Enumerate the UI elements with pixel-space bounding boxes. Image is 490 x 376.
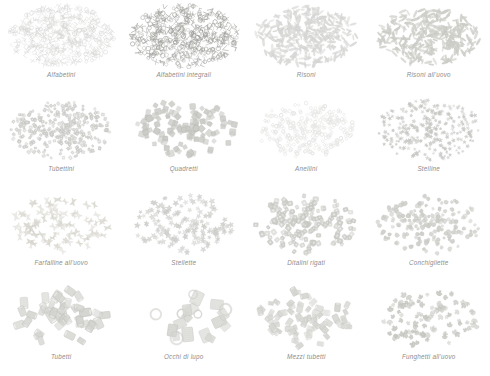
pasta-photo	[5, 285, 117, 351]
pasta-caption: Risoni	[297, 72, 316, 79]
pasta-cell-mezzi-tubetti: Mezzi tubetti	[245, 282, 368, 376]
pasta-photo	[5, 191, 117, 257]
pasta-caption: Tubettini	[48, 166, 74, 173]
pasta-cell-alfabetini: Alfabetini	[0, 0, 123, 94]
pasta-photo	[5, 3, 117, 69]
pasta-caption: Anellini	[295, 166, 317, 173]
pasta-cell-stelline: Stelline	[368, 94, 490, 188]
pasta-caption: Conchigliette	[409, 260, 449, 267]
pasta-cell-tubetti: Tubetti	[0, 282, 123, 376]
pasta-cell-occhi-di-lupo: Occhi di lupo	[123, 282, 246, 376]
pasta-cell-farfalline-all-uovo: Farfalline all'uovo	[0, 188, 123, 282]
pasta-photo	[373, 3, 485, 69]
pasta-cell-stellette: Stellette	[123, 188, 246, 282]
pasta-cell-anellini: Anellini	[245, 94, 368, 188]
pasta-cell-ditalini-rigati: Ditalini rigati	[245, 188, 368, 282]
pasta-cell-alfabetini-integrali: Alfabetini integrali	[123, 0, 246, 94]
pasta-caption: Stellette	[171, 260, 196, 267]
pasta-caption: Mezzi tubetti	[287, 354, 326, 361]
pasta-cell-risoni: Risoni	[245, 0, 368, 94]
pasta-caption: Tubetti	[51, 354, 72, 361]
pasta-photo	[5, 97, 117, 163]
pasta-cell-funghetti-all-uovo: Funghetti all'uovo	[368, 282, 490, 376]
pasta-photo	[128, 285, 240, 351]
pasta-caption: Ditalini rigati	[287, 260, 325, 267]
pasta-photo	[373, 191, 485, 257]
pasta-caption: Alfabetini integrali	[156, 72, 211, 79]
pasta-photo	[373, 285, 485, 351]
pasta-photo	[250, 285, 362, 351]
pasta-cell-tubettini: Tubettini	[0, 94, 123, 188]
pasta-photo	[128, 97, 240, 163]
pasta-caption: Farfalline all'uovo	[34, 260, 88, 267]
pasta-photo	[250, 3, 362, 69]
pasta-photo	[128, 3, 240, 69]
pasta-photo	[373, 97, 485, 163]
pasta-cell-risoni-all-uovo: Risoni all'uovo	[368, 0, 490, 94]
pasta-photo	[250, 191, 362, 257]
pasta-cell-quadretti: Quadretti	[123, 94, 246, 188]
pasta-caption: Occhi di lupo	[164, 354, 204, 361]
pasta-caption: Funghetti all'uovo	[402, 354, 456, 361]
pasta-photo	[250, 97, 362, 163]
pasta-cell-conchigliette: Conchigliette	[368, 188, 490, 282]
pasta-caption: Quadretti	[170, 166, 198, 173]
pasta-caption: Alfabetini	[47, 72, 75, 79]
pasta-varieties-grid: AlfabetiniAlfabetini integraliRisoniRiso…	[0, 0, 490, 376]
pasta-photo	[128, 191, 240, 257]
pasta-caption: Risoni all'uovo	[407, 72, 451, 79]
pasta-caption: Stelline	[417, 166, 440, 173]
